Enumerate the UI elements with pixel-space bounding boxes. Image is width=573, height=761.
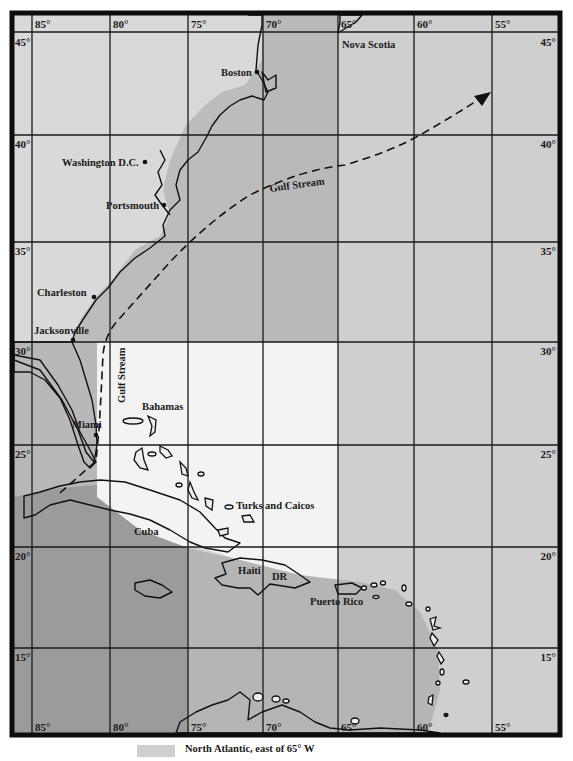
svg-text:65°: 65° xyxy=(341,721,356,733)
gulf-stream-map: 85° 80° 75° 70° 65° 60° 55° 85° 80° 75° … xyxy=(0,0,573,761)
svg-text:60°: 60° xyxy=(417,18,432,30)
city-label-washington: Washington D.C. xyxy=(62,157,139,168)
svg-text:70°: 70° xyxy=(266,721,281,733)
city-dot-icon xyxy=(143,160,148,165)
current-label-gulf-stream-vertical: Gulf Stream xyxy=(116,347,127,403)
island xyxy=(218,528,228,536)
ocean-zones xyxy=(14,15,558,733)
island xyxy=(381,581,386,585)
svg-text:15°: 15° xyxy=(15,651,30,663)
svg-text:70°: 70° xyxy=(266,18,281,30)
svg-text:45°: 45° xyxy=(541,36,556,48)
city-label-jacksonville: Jacksonville xyxy=(34,325,89,336)
svg-text:55°: 55° xyxy=(495,18,510,30)
island xyxy=(371,583,377,587)
city-label-boston: Boston xyxy=(221,67,252,78)
svg-text:30°: 30° xyxy=(541,345,556,357)
svg-text:20°: 20° xyxy=(541,550,556,562)
region-label-turks-and-caicos: Turks and Caicos xyxy=(236,500,314,511)
region-label-dr: DR xyxy=(272,571,288,582)
island xyxy=(272,696,280,702)
svg-text:25°: 25° xyxy=(541,448,556,460)
svg-text:65°: 65° xyxy=(341,18,356,30)
region-label-bahamas: Bahamas xyxy=(142,401,183,412)
region-label-haiti: Haiti xyxy=(238,565,261,576)
svg-text:55°: 55° xyxy=(495,721,510,733)
svg-text:40°: 40° xyxy=(541,138,556,150)
island xyxy=(440,669,444,675)
city-dot-icon xyxy=(255,70,260,75)
city-label-charleston: Charleston xyxy=(37,287,87,298)
svg-text:85°: 85° xyxy=(35,18,50,30)
legend-label: North Atlantic, east of 65° W xyxy=(185,742,314,756)
city-dot-icon xyxy=(94,433,99,438)
island xyxy=(283,699,289,703)
svg-text:85°: 85° xyxy=(35,721,50,733)
legend: North Atlantic, east of 65° W xyxy=(137,742,314,761)
svg-text:30°: 30° xyxy=(15,345,30,357)
legend-swatch xyxy=(137,745,175,757)
svg-text:20°: 20° xyxy=(15,550,30,562)
svg-text:45°: 45° xyxy=(15,36,30,48)
island xyxy=(123,418,143,424)
region-label-nova-scotia: Nova Scotia xyxy=(342,39,396,50)
svg-text:80°: 80° xyxy=(113,721,128,733)
svg-text:35°: 35° xyxy=(541,245,556,257)
svg-text:40°: 40° xyxy=(15,138,30,150)
city-label-portsmouth: Portsmouth xyxy=(106,200,159,211)
svg-text:80°: 80° xyxy=(113,18,128,30)
svg-text:15°: 15° xyxy=(541,651,556,663)
city-dot-icon xyxy=(162,203,167,208)
island xyxy=(373,596,379,599)
region-label-puerto-rico: Puerto Rico xyxy=(310,596,363,607)
svg-text:75°: 75° xyxy=(191,18,206,30)
island xyxy=(444,714,448,717)
city-label-miami: Miami xyxy=(72,419,102,430)
svg-text:35°: 35° xyxy=(15,245,30,257)
island xyxy=(428,695,433,705)
island xyxy=(436,681,440,685)
island xyxy=(402,585,406,591)
island xyxy=(362,586,367,590)
region-label-cuba: Cuba xyxy=(134,526,159,537)
island xyxy=(253,693,263,701)
island xyxy=(406,602,412,606)
island xyxy=(148,452,156,456)
island xyxy=(225,505,233,509)
island xyxy=(176,483,182,487)
island xyxy=(463,680,469,684)
city-dot-icon xyxy=(71,338,76,343)
svg-text:75°: 75° xyxy=(191,721,206,733)
island xyxy=(426,607,430,611)
island xyxy=(198,472,204,476)
svg-text:60°: 60° xyxy=(417,721,432,733)
svg-text:25°: 25° xyxy=(15,448,30,460)
city-dot-icon xyxy=(92,295,97,300)
